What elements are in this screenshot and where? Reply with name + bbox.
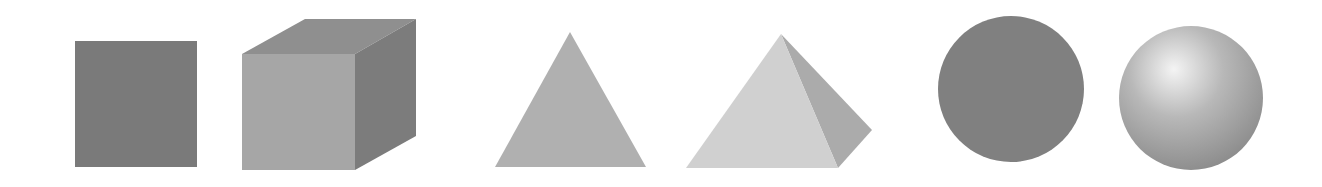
shapes-figure [0, 0, 1322, 187]
cube-shape [242, 19, 416, 170]
sphere-shape [1119, 26, 1263, 170]
square-shape [75, 41, 197, 167]
cube-front-face [242, 54, 355, 170]
triangle-shape [495, 32, 646, 167]
pyramid-shape [686, 34, 872, 168]
circle-shape [938, 16, 1084, 162]
